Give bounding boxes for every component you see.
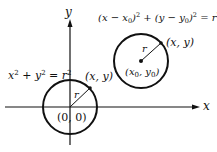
point-on-circle-shifted bbox=[159, 41, 163, 45]
radius-label-shifted: r bbox=[142, 43, 148, 54]
center-label-shifted: (x0, y0) bbox=[125, 66, 160, 79]
point-label-shifted: (x, y) bbox=[166, 36, 194, 49]
circle-shifted: r (x, y) (x0, y0) (x − x0)2 + (y − y0)2 … bbox=[98, 11, 217, 88]
point-on-circle-origin bbox=[88, 86, 92, 90]
radius-line-origin bbox=[70, 88, 90, 107]
center-point-shifted bbox=[139, 59, 143, 63]
circle-origin: r (x, y) (0, 0) x2 + y2 = r2 bbox=[8, 69, 113, 134]
y-axis-arrow-icon bbox=[68, 19, 73, 27]
point-label-origin: (x, y) bbox=[85, 70, 113, 83]
x-axis-arrow-icon bbox=[192, 105, 200, 110]
x-axis-label: x bbox=[203, 99, 210, 113]
equation-shifted: (x − x0)2 + (y − y0)2 = r2 bbox=[98, 11, 217, 25]
circle-equations-diagram: x y r (x, y) (0, 0) x2 + y2 = r2 r (x, y… bbox=[0, 0, 217, 152]
center-label-origin: (0, 0) bbox=[57, 111, 87, 124]
y-axis-label: y bbox=[64, 5, 72, 19]
equation-origin: x2 + y2 = r2 bbox=[8, 69, 72, 82]
